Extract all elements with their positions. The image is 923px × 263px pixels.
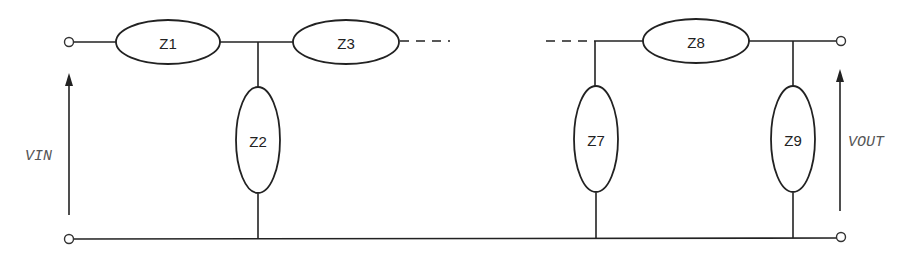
input-terminal-bottom [65,235,74,244]
impedance-z9-label: Z9 [784,132,802,149]
impedance-z7: Z7 [574,86,618,192]
impedance-z9: Z9 [771,86,815,192]
impedance-z2: Z2 [236,87,280,193]
impedance-z8-label: Z8 [687,34,705,51]
impedance-z3-label: Z3 [337,35,355,52]
ladder-network-diagram: Z1 Z3 Z2 Z8 Z7 Z9 VIN [0,0,923,263]
impedance-z8: Z8 [643,19,749,63]
input-terminal-top [65,38,74,47]
bottom-rail [73,238,837,239]
impedance-z2-label: Z2 [249,133,267,150]
vin-arrow-icon [65,73,73,215]
vout-arrow-icon [836,69,844,211]
vout-label: VOUT [848,134,885,151]
impedance-z1-label: Z1 [159,35,177,52]
impedance-z1: Z1 [116,20,220,64]
impedance-z3: Z3 [293,20,399,64]
impedance-z7-label: Z7 [587,132,605,149]
vin-label: VIN [25,148,52,165]
output-terminal-top [837,37,846,46]
shunt-wires [258,41,793,239]
output-terminal-bottom [837,233,846,242]
